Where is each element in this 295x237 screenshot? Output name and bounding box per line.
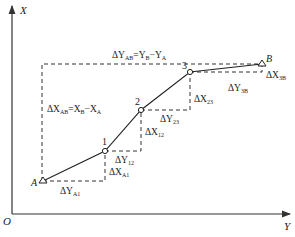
traverse-points xyxy=(39,60,266,183)
delta-x-ab-label: ΔXAB=XB−XA xyxy=(47,104,102,115)
delta-y-a1-label: ΔYA1 xyxy=(60,186,80,197)
point-2-circle-icon xyxy=(138,107,143,112)
point-B-label: B xyxy=(266,53,272,64)
delta-y-ab-label: ΔYAB=YB−YA xyxy=(112,50,167,61)
delta-x-23-label: ΔX23 xyxy=(194,94,213,105)
dashed-AB-bounding xyxy=(42,64,262,181)
point-B-triangle-icon xyxy=(258,60,266,66)
y-axis-label: Y xyxy=(284,220,292,232)
delta-y-12-label: ΔY12 xyxy=(115,155,134,166)
origin-label: O xyxy=(3,215,11,227)
point-1-label: 1 xyxy=(102,136,107,147)
delta-x-a1-label: ΔXA1 xyxy=(109,167,129,178)
coordinate-axes: X Y O xyxy=(3,4,292,232)
dashed-increments xyxy=(42,64,262,181)
traverse-line xyxy=(43,64,262,181)
traverse-diagram: X Y O A 1 2 3 B ΔYAB=YB−YA ΔXAB=XB−XA ΔY… xyxy=(0,0,295,237)
delta-x-12-label: ΔX12 xyxy=(145,127,164,138)
point-1-circle-icon xyxy=(102,148,107,153)
point-A-label: A xyxy=(30,177,38,188)
delta-y-3b-label: ΔY3B xyxy=(228,83,248,94)
delta-x-3b-label: ΔX3B xyxy=(266,70,286,81)
point-2-label: 2 xyxy=(135,96,140,107)
x-axis-label: X xyxy=(19,4,28,16)
delta-y-23-label: ΔY23 xyxy=(160,114,179,125)
point-3-label: 3 xyxy=(182,60,187,71)
point-3-circle-icon xyxy=(187,69,192,74)
